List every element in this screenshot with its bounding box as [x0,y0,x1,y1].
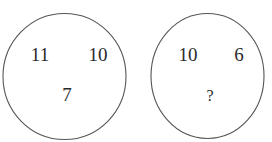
circle-2-top-right-number: 6 [234,44,244,65]
circle-1-top-left-number: 11 [31,44,49,65]
circle-1-outline [3,14,126,140]
circle-1-top-right-number: 10 [89,44,108,65]
circle-2-top-left-number: 10 [179,44,198,65]
circle-1: 11 10 7 [3,14,126,140]
circle-2-missing-number: ? [206,87,213,104]
number-puzzle-diagram: 11 10 7 10 6 ? [0,0,272,142]
circle-2-outline [151,14,264,139]
circle-1-bottom-number: 7 [62,84,72,105]
circle-2: 10 6 ? [151,14,264,139]
